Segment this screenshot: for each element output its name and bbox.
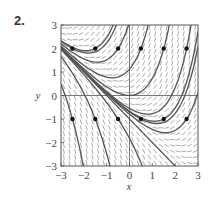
slope-segment <box>130 85 135 87</box>
slope-segment <box>195 25 196 30</box>
slope-segment <box>108 26 110 31</box>
slope-segment <box>170 127 175 129</box>
slope-segment <box>101 63 106 64</box>
slope-segment <box>178 25 179 30</box>
slope-segment <box>91 90 94 94</box>
slope-segment <box>137 143 140 148</box>
slope-segment <box>103 114 105 119</box>
slope-segment <box>143 155 145 160</box>
slope-segment <box>113 74 118 75</box>
slope-segment <box>92 143 93 148</box>
slope-segment <box>166 55 167 60</box>
slope-segment <box>187 151 192 152</box>
slope-segment <box>177 37 178 42</box>
slope-segment <box>102 56 107 58</box>
slope-segment <box>188 132 192 136</box>
slope-segment <box>108 125 110 130</box>
slope-segment <box>148 143 151 147</box>
slope-segment <box>85 85 88 89</box>
slope-segment <box>136 85 140 88</box>
slope-segment <box>96 38 100 42</box>
initial-point <box>70 46 74 50</box>
slope-segment <box>63 114 64 119</box>
slope-segment <box>103 155 104 160</box>
slope-segment <box>177 31 178 36</box>
slope-segment <box>80 96 82 101</box>
slope-segment <box>114 37 117 42</box>
slope-segment <box>193 157 198 158</box>
slope-segment <box>177 49 178 54</box>
slope-segment <box>126 161 128 166</box>
slope-segment <box>160 31 161 36</box>
slope-segment <box>195 67 196 72</box>
slope-segment <box>189 55 190 60</box>
slope-segment <box>119 67 123 70</box>
slope-segment <box>74 67 77 71</box>
slope-segment <box>120 161 121 166</box>
slope-segment <box>160 25 161 30</box>
slope-segment <box>114 131 116 136</box>
slope-segment <box>86 161 87 166</box>
slope-segment <box>124 80 129 82</box>
slope-segment <box>183 25 184 30</box>
slope-segment <box>181 157 186 158</box>
slope-segment <box>176 120 180 124</box>
slope-segment <box>142 73 145 77</box>
slope-segment <box>98 161 99 166</box>
slope-segment <box>164 144 169 146</box>
slope-segment <box>91 32 95 36</box>
slope-segment <box>92 125 94 130</box>
slope-segment <box>160 43 161 48</box>
slope-segment <box>125 55 128 59</box>
slope-segment <box>188 102 190 107</box>
slope-segment <box>159 138 164 140</box>
slope-segment <box>131 37 133 42</box>
slope-segment <box>172 37 173 42</box>
slope-segment <box>63 143 64 148</box>
slope-segment <box>86 114 88 119</box>
slope-segment <box>165 108 169 112</box>
slope-segment <box>108 50 112 54</box>
slope-segment <box>69 90 71 95</box>
slope-segment <box>68 78 70 83</box>
initial-point <box>116 117 120 121</box>
slope-segment <box>154 37 155 42</box>
slope-segment <box>63 67 66 72</box>
slope-segment <box>124 86 129 87</box>
slope-segment <box>183 67 184 72</box>
slope-segment <box>79 33 84 35</box>
slope-segment <box>148 155 151 160</box>
slope-segment <box>114 31 116 36</box>
slope-segment <box>80 131 81 136</box>
slope-segment <box>176 139 181 140</box>
slope-segment <box>63 131 64 136</box>
slope-segment <box>80 79 83 83</box>
slope-segment <box>63 155 64 160</box>
slope-segment <box>159 115 164 117</box>
slope-segment <box>124 98 129 99</box>
slope-segment <box>148 67 150 72</box>
slope-segment <box>166 25 167 30</box>
slope-segment <box>108 44 111 48</box>
slope-segment <box>136 79 140 83</box>
slope-segment <box>120 31 122 36</box>
slope-segment <box>153 115 158 116</box>
initial-point <box>70 117 74 121</box>
slope-segment <box>143 25 144 30</box>
slope-segment <box>181 145 186 146</box>
slope-segment <box>114 149 116 154</box>
slope-segment <box>160 73 162 78</box>
slope-segment <box>148 149 151 153</box>
slope-segment <box>176 114 179 118</box>
slope-segment <box>86 131 87 136</box>
slope-segment <box>172 31 173 36</box>
slope-segment <box>159 161 162 165</box>
slope-segment <box>131 31 133 36</box>
y-tick-label: 3 <box>52 19 58 31</box>
slope-segment <box>80 102 82 107</box>
slope-segment <box>176 132 181 134</box>
slope-segment <box>131 132 134 136</box>
slope-segment <box>149 31 150 36</box>
slope-segment <box>91 26 94 30</box>
slope-segment <box>160 78 162 83</box>
